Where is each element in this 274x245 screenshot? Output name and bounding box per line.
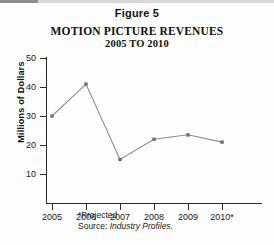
y-tick-label-40: 40 — [10, 82, 36, 92]
y-tick-30 — [40, 116, 46, 117]
page-top-edge-shadow — [0, 0, 38, 3]
data-point-2006 — [84, 82, 87, 85]
x-tick-2005 — [52, 204, 53, 210]
footnote-source: Source: Industry Profiles. — [78, 221, 173, 232]
y-tick-10 — [40, 174, 46, 175]
chart-title: MOTION PICTURE REVENUES — [0, 25, 274, 38]
y-tick-50 — [40, 58, 46, 59]
figure-number: Figure 5 — [0, 7, 274, 19]
y-tick-label-50: 50 — [10, 53, 36, 63]
data-point-2010 — [220, 140, 223, 143]
x-tick-2009 — [188, 204, 189, 210]
series-markers — [50, 82, 223, 161]
footnotes-block: *Projected Source: Industry Profiles. — [78, 210, 173, 232]
x-tick-2010 — [222, 204, 223, 210]
page-top-edge — [0, 0, 274, 3]
y-tick-40 — [40, 87, 46, 88]
data-point-2005 — [50, 114, 53, 117]
figure-card: Figure 5 MOTION PICTURE REVENUES 2005 TO… — [0, 0, 274, 245]
x-tick-label-2010: 2010* — [200, 212, 244, 222]
y-axis-line — [46, 57, 47, 204]
data-point-2007 — [118, 158, 121, 161]
y-tick-label-30: 30 — [10, 111, 36, 121]
y-tick-20 — [40, 145, 46, 146]
source-name: Industry Profiles. — [110, 221, 173, 231]
series-line-motion-picture-revenues — [52, 84, 222, 159]
footnote-projected: *Projected — [78, 210, 173, 221]
data-point-2009 — [186, 133, 189, 136]
y-tick-label-20: 20 — [10, 140, 36, 150]
data-point-2008 — [152, 138, 155, 141]
chart-subtitle: 2005 TO 2010 — [0, 38, 274, 49]
y-axis-title: Millions of Dollars — [16, 50, 26, 154]
y-tick-label-10: 10 — [10, 169, 36, 179]
source-label: Source: — [78, 221, 107, 231]
